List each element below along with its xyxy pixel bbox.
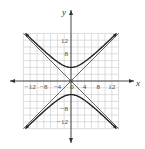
x-axis-label: x bbox=[135, 78, 140, 88]
y-arrow-down-icon bbox=[69, 138, 73, 143]
x-arrow-left-icon bbox=[10, 79, 15, 83]
x-tick-label: 8 bbox=[96, 83, 100, 91]
y-tick-label: 8 bbox=[65, 50, 69, 58]
x-tick-label: −8 bbox=[40, 83, 48, 91]
y-axis-label: y bbox=[61, 7, 66, 17]
x-arrow-right-icon bbox=[129, 79, 134, 83]
x-tick-label: −4 bbox=[54, 83, 62, 91]
x-tick-label: 4 bbox=[83, 83, 87, 91]
y-tick-label: −12 bbox=[57, 118, 68, 126]
y-tick-label: 12 bbox=[61, 37, 69, 45]
y-tick-label: −8 bbox=[61, 105, 69, 113]
x-tick-label: 12 bbox=[108, 83, 116, 91]
hyperbola-chart: −12−8−404812128−8−12 x y bbox=[0, 0, 145, 149]
y-arrow-up-icon bbox=[69, 10, 73, 15]
x-tick-label: −12 bbox=[25, 83, 36, 91]
